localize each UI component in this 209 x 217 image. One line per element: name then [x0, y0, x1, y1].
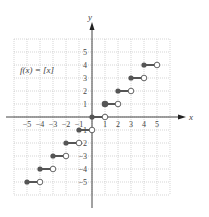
closed-endpoint-icon — [76, 127, 81, 132]
x-tick-label: −5 — [23, 120, 32, 129]
open-endpoint-icon — [37, 179, 43, 185]
closed-endpoint-icon — [141, 62, 146, 67]
open-endpoint-icon — [154, 62, 160, 68]
axes — [6, 22, 186, 208]
closed-endpoint-icon — [115, 88, 120, 93]
x-axis-label: x — [188, 112, 193, 122]
open-endpoint-icon — [115, 101, 121, 107]
y-tick-label: 1 — [83, 100, 87, 109]
x-tick-label: 5 — [155, 120, 159, 129]
closed-endpoint-icon — [89, 114, 94, 119]
x-tick-label: 4 — [142, 120, 146, 129]
x-tick-label: −2 — [62, 120, 71, 129]
y-tick-label: 4 — [83, 61, 87, 70]
y-tick-label: 3 — [83, 74, 87, 83]
open-endpoint-icon — [141, 75, 147, 81]
y-axis-arrow-icon — [90, 22, 95, 30]
open-endpoint-icon — [89, 127, 95, 133]
x-tick-label: 3 — [129, 120, 133, 129]
closed-endpoint-icon — [63, 140, 68, 145]
y-tick-label: 2 — [83, 87, 87, 96]
y-tick-label: −5 — [78, 178, 87, 187]
y-tick-label: −3 — [78, 152, 87, 161]
open-endpoint-icon — [102, 114, 108, 120]
x-axis-arrow-icon — [178, 115, 186, 120]
closed-endpoint-icon — [24, 179, 29, 184]
open-endpoint-icon — [63, 153, 69, 159]
x-tick-label: 2 — [116, 120, 120, 129]
open-endpoint-icon — [76, 140, 82, 146]
y-tick-label: −4 — [78, 165, 87, 174]
closed-endpoint-icon — [50, 153, 55, 158]
y-tick-label: 5 — [83, 48, 87, 57]
closed-endpoint-icon — [102, 101, 109, 108]
x-tick-label: −3 — [49, 120, 58, 129]
step-function-graph: −5−4−3−2−11234554321−1−2−3−4−5 f(x) = [x… — [0, 0, 209, 217]
function-label: f(x) = [x] — [20, 65, 55, 75]
x-tick-label: 1 — [103, 120, 107, 129]
open-endpoint-icon — [128, 88, 134, 94]
open-endpoint-icon — [50, 166, 56, 172]
closed-endpoint-icon — [37, 166, 42, 171]
closed-endpoint-icon — [128, 75, 133, 80]
x-tick-label: −4 — [36, 120, 45, 129]
y-axis-label: y — [87, 12, 92, 22]
